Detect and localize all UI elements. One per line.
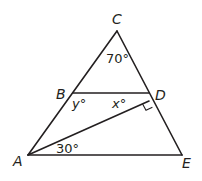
geometry-diagram: C B D A E 70° y° x° 30°	[0, 0, 202, 181]
segment-AD	[28, 101, 149, 155]
triangle-figure: C B D A E 70° y° x° 30°	[0, 0, 202, 181]
label-C: C	[112, 11, 122, 27]
label-B: B	[56, 86, 66, 102]
label-E: E	[182, 155, 191, 171]
angle-30-label: 30°	[56, 141, 79, 156]
label-D: D	[155, 87, 166, 103]
angle-y-label: y°	[71, 96, 86, 111]
angle-x-label: x°	[111, 96, 126, 111]
angle-C-label: 70°	[106, 51, 129, 66]
label-A: A	[12, 153, 23, 169]
right-angle-marker	[143, 104, 153, 110]
